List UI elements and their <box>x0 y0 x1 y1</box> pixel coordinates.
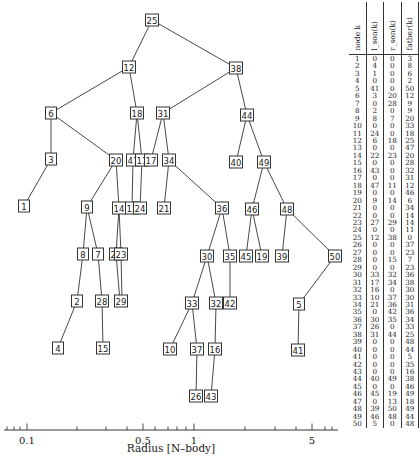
tree-edge <box>192 303 197 349</box>
table-header-row: node k l_son(k) r_son(k) father(k) <box>349 2 419 55</box>
tree-edge <box>170 303 192 349</box>
node-label: 49 <box>259 158 270 168</box>
node-label: 3 <box>48 155 53 165</box>
node-label: 29 <box>116 297 127 307</box>
tree-node: 21 <box>158 202 171 214</box>
node-label: 14 <box>114 204 125 214</box>
axis-title: Radius [N–body] <box>127 442 215 454</box>
node-label: 7 <box>95 250 100 260</box>
tree-diagram: 2512386183144320471117344049191412242136… <box>0 0 345 460</box>
tree-node: 49 <box>258 156 271 168</box>
tree-edge <box>298 304 299 350</box>
tree-edge <box>116 160 119 208</box>
node-label: 10 <box>165 345 176 355</box>
cell-father: 48 <box>401 420 419 427</box>
tree-edge <box>207 208 222 256</box>
tree-edge <box>207 256 216 303</box>
tree-edge <box>133 113 137 160</box>
tree-edge <box>215 303 216 349</box>
node-label: 12 <box>124 63 135 73</box>
tree-node: 9 <box>82 201 93 213</box>
tree-edge <box>222 208 230 256</box>
tick-label: 0.1 <box>19 435 35 446</box>
tree-edge <box>24 159 51 206</box>
table-body: 1003240831064002541050632012702898209987… <box>349 55 419 428</box>
node-label: 8 <box>80 250 85 260</box>
node-label: 48 <box>282 205 293 215</box>
tree-node: 36 <box>216 202 229 214</box>
tree-edge <box>264 162 287 209</box>
tree-edge <box>87 207 98 254</box>
tree-node: 3 <box>46 153 57 165</box>
tree-node: 15 <box>97 342 110 354</box>
tree-node: 7 <box>93 248 104 260</box>
tree-node: 8 <box>78 248 89 260</box>
tree-edge <box>51 113 116 160</box>
tick-label: 5 <box>309 435 315 446</box>
tree-node: 17 <box>145 154 158 166</box>
tree-node: 24 <box>134 202 147 214</box>
tree-node: 39 <box>276 250 289 262</box>
node-label: 42 <box>225 299 236 309</box>
tree-node: 28 <box>96 295 109 307</box>
node-label: 1 <box>21 202 26 212</box>
node-label: 28 <box>97 297 108 307</box>
header-father: father(k) <box>401 2 419 55</box>
tree-node: 6 <box>46 107 57 119</box>
node-label: 17 <box>146 156 157 166</box>
node-label: 32 <box>211 299 222 309</box>
node-label: 46 <box>247 205 258 215</box>
tree-node: 25 <box>146 14 159 26</box>
tree-node: 12 <box>123 61 136 73</box>
node-label: 34 <box>164 156 175 166</box>
node-label: 30 <box>202 252 213 262</box>
node-label: 41 <box>293 346 304 356</box>
tree-edge <box>116 254 120 301</box>
node-label: 25 <box>147 16 158 26</box>
tree-edge <box>236 115 247 162</box>
tree-node: 23 <box>115 248 128 260</box>
tree-edge <box>83 207 87 254</box>
node-label: 21 <box>159 204 170 214</box>
node-label: 16 <box>210 345 221 355</box>
tree-edge <box>247 115 264 162</box>
tree-edge <box>282 209 287 256</box>
node-label: 15 <box>98 344 109 354</box>
tree-edge <box>51 67 129 113</box>
node-label: 39 <box>277 252 288 262</box>
tree-node: 18 <box>131 107 144 119</box>
tree-edge <box>287 209 335 256</box>
tree-node: 42 <box>224 297 237 309</box>
tree-edge <box>246 209 252 256</box>
node-label: 5 <box>296 300 301 310</box>
header-rson: r_son(k) <box>384 2 402 55</box>
tree-edge <box>236 68 247 115</box>
node-label: 45 <box>241 252 252 262</box>
tree-node: 35 <box>224 250 237 262</box>
node-label: 20 <box>111 156 122 166</box>
node-label: 23 <box>116 250 127 260</box>
tree-edge <box>252 209 262 256</box>
tree-node: 45 <box>240 250 253 262</box>
cell-rson: 0 <box>384 420 402 427</box>
node-label: 18 <box>132 109 143 119</box>
tree-edge <box>98 254 102 301</box>
tree-edge <box>299 256 335 304</box>
cell-node: 50 <box>349 420 366 427</box>
node-label: 9 <box>84 203 89 213</box>
header-lson: l_son(k) <box>366 2 384 55</box>
tree-nodes: 2512386183144320471117344049191412242136… <box>19 14 342 402</box>
tree-node: 2 <box>72 295 83 307</box>
node-label: 43 <box>206 392 217 402</box>
node-label: 19 <box>257 252 268 262</box>
tree-node: 43 <box>205 390 218 402</box>
node-link-table: node k l_son(k) r_son(k) father(k) 10032… <box>349 2 419 428</box>
tree-node: 32 <box>210 297 223 309</box>
tree-node: 48 <box>281 203 294 215</box>
tree-edge <box>152 20 236 68</box>
tree-node: 5 <box>294 298 305 310</box>
tree-node: 26 <box>190 390 203 402</box>
node-label: 37 <box>192 345 203 355</box>
node-label: 36 <box>217 204 228 214</box>
node-label: 26 <box>191 392 202 402</box>
